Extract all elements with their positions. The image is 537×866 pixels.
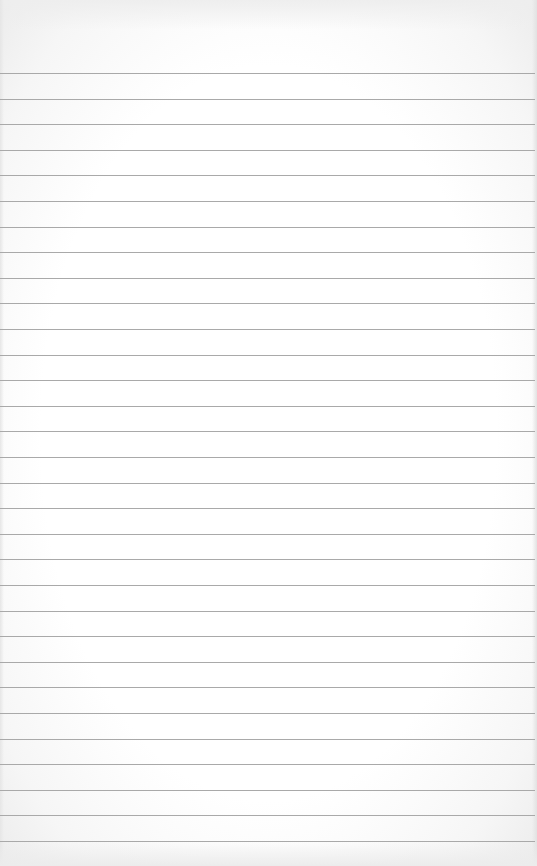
ruled-line [0, 559, 535, 560]
ruled-line [0, 764, 535, 765]
ruled-line [0, 662, 535, 663]
ruled-line [0, 99, 535, 100]
bottom-shadow [0, 842, 537, 866]
ruled-line [0, 739, 535, 740]
ruled-line [0, 431, 535, 432]
right-edge-shadow [532, 0, 537, 866]
ruled-line [0, 713, 535, 714]
ruled-line [0, 380, 535, 381]
ruled-line [0, 175, 535, 176]
ruled-line [0, 150, 535, 151]
ruled-line [0, 841, 535, 842]
ruled-line [0, 278, 535, 279]
ruled-line [0, 457, 535, 458]
ruled-line [0, 406, 535, 407]
ruled-line [0, 790, 535, 791]
top-shadow [0, 0, 537, 30]
ruled-line [0, 355, 535, 356]
ruled-line [0, 124, 535, 125]
ruled-line [0, 636, 535, 637]
left-edge-shadow [0, 0, 4, 866]
ruled-line [0, 508, 535, 509]
ruled-line [0, 483, 535, 484]
ruled-line [0, 687, 535, 688]
ruled-line [0, 201, 535, 202]
ruled-line [0, 585, 535, 586]
lined-paper-sheet [0, 0, 537, 866]
ruled-line [0, 303, 535, 304]
ruled-line [0, 329, 535, 330]
ruled-line [0, 611, 535, 612]
ruled-line [0, 252, 535, 253]
ruled-line [0, 815, 535, 816]
ruled-line [0, 227, 535, 228]
ruled-line [0, 73, 535, 74]
ruled-line [0, 534, 535, 535]
